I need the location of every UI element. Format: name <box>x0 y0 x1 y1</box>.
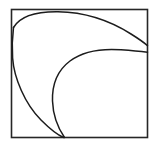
inner-arc <box>52 49 147 137</box>
outer-arc <box>14 12 148 46</box>
figure-container <box>0 0 161 149</box>
geometric-figure-svg <box>0 0 161 149</box>
square-border <box>12 10 148 138</box>
